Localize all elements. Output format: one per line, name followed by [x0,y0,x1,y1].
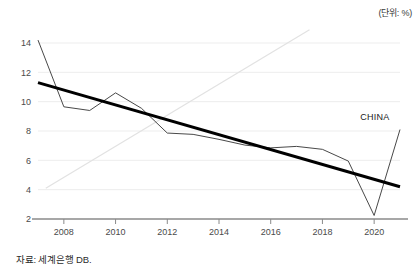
svg-text:12: 12 [21,68,31,78]
line-chart-canvas: 2468101214 2008201020122014201620182020 [0,0,420,272]
faint-diagonal-line [46,30,310,188]
svg-text:2008: 2008 [54,227,74,237]
svg-text:10: 10 [21,97,31,107]
svg-text:2012: 2012 [157,227,177,237]
source-note: 자료: 세계은행 DB. [16,252,91,266]
svg-text:8: 8 [26,126,31,136]
trend-line [38,83,400,187]
svg-text:6: 6 [26,156,31,166]
x-axis-tick-labels: 2008201020122014201620182020 [54,227,384,237]
china-series-label: CHINA [360,112,390,122]
svg-text:2010: 2010 [106,227,126,237]
svg-text:2: 2 [26,214,31,224]
chart-figure: (단위: %) 2468101214 200820102012201420162… [0,0,420,272]
gridlines [38,43,400,190]
svg-text:4: 4 [26,185,31,195]
y-axis-tick-labels: 2468101214 [21,38,31,224]
svg-text:2014: 2014 [209,227,229,237]
x-axis-ticks [64,219,374,224]
svg-text:14: 14 [21,38,31,48]
svg-text:2016: 2016 [261,227,281,237]
svg-text:2018: 2018 [312,227,332,237]
svg-text:2020: 2020 [364,227,384,237]
